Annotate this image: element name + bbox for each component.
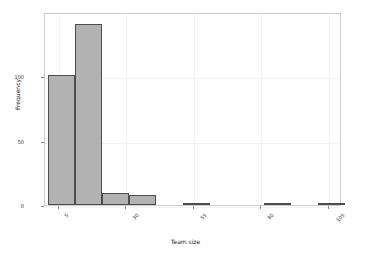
histogram-bar (264, 203, 291, 205)
x-tick-mark (58, 206, 59, 209)
x-tick-label: 80 (266, 212, 275, 221)
y-tick-mark (41, 142, 44, 143)
gridline-vertical (261, 14, 262, 205)
histogram-bar (183, 203, 210, 205)
x-tick-mark (260, 206, 261, 209)
y-tick-label: 50 (0, 139, 24, 145)
x-tick-label: 5 (62, 212, 68, 218)
gridline-vertical (329, 14, 330, 205)
histogram-bar (129, 195, 156, 205)
histogram-figure: 0501005305580105 Frequency Team size (0, 0, 371, 258)
x-tick-label: 30 (131, 212, 140, 221)
x-tick-mark (125, 206, 126, 209)
histogram-bar (48, 75, 75, 205)
y-axis-title: Frequency (14, 79, 21, 110)
y-tick-mark (41, 77, 44, 78)
histogram-bar (318, 203, 345, 205)
x-tick-mark (193, 206, 194, 209)
x-axis-title: Team size (0, 238, 371, 245)
plot-axes (44, 13, 341, 206)
histogram-bar (102, 193, 129, 205)
y-tick-label: 0 (0, 203, 24, 209)
histogram-bar (75, 24, 102, 205)
y-tick-mark (41, 206, 44, 207)
plot-area (45, 14, 340, 205)
gridline-vertical (194, 14, 195, 205)
x-tick-label: 55 (198, 212, 207, 221)
gridline-vertical (126, 14, 127, 205)
x-tick-mark (328, 206, 329, 209)
x-tick-label: 105 (334, 212, 345, 223)
